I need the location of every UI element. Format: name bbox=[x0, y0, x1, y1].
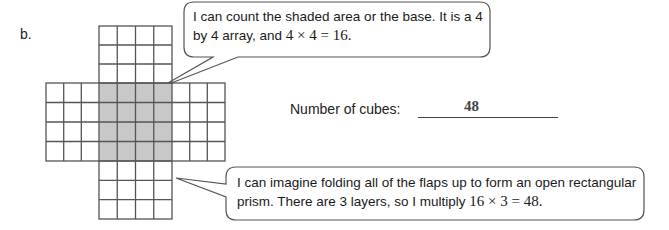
callout-top-text: I can count the shaded area or the base.… bbox=[193, 7, 483, 45]
answer-underline bbox=[418, 117, 558, 118]
callout-top-line2: by 4 array, and 4 × 4 = 16. bbox=[193, 26, 483, 45]
answer-row: Number of cubes: 48 bbox=[290, 101, 401, 117]
answer-label: Number of cubes: bbox=[290, 101, 401, 117]
callout-top-equation: 4 × 4 = 16. bbox=[286, 27, 352, 43]
callout-bottom-line1: I can imagine folding all of the flaps u… bbox=[237, 173, 636, 192]
callout-bottom-equation: 16 × 3 = 48. bbox=[469, 193, 542, 209]
callout-top-line1: I can count the shaded area or the base.… bbox=[193, 7, 483, 26]
callout-bottom-line2: prism. There are 3 layers, so I multiply… bbox=[237, 192, 636, 211]
answer-value: 48 bbox=[418, 98, 558, 115]
callout-bottom-text: I can imagine folding all of the flaps u… bbox=[237, 173, 636, 211]
